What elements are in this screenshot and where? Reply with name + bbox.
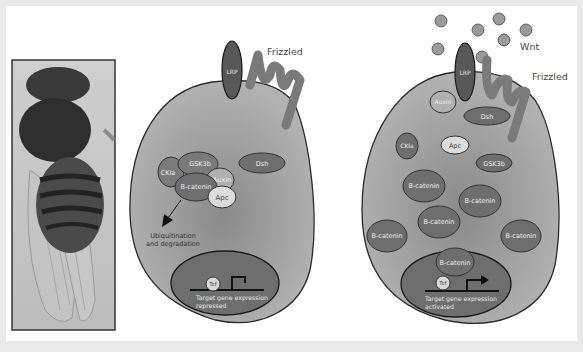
- wnt-label: Wnt: [520, 41, 539, 52]
- dsh-label: Dsh: [481, 113, 494, 121]
- bcatenin-label: B-catenin: [465, 197, 496, 205]
- bcatenin-label: B-catenin: [181, 183, 212, 191]
- degradation-label: and degradation: [146, 240, 200, 248]
- nucleus-caption-2: activated: [425, 303, 454, 310]
- wnt-ligands: [432, 13, 532, 63]
- bcatenin-label: B-catenin: [506, 232, 537, 240]
- nucleus-caption-1: Target gene expression: [195, 294, 268, 302]
- apc-label: Apc: [449, 142, 462, 150]
- tcf-label: Tcf: [438, 280, 447, 286]
- nucleus-bcatenin-label: B-catenin: [440, 259, 471, 267]
- dsh-label: Dsh: [256, 160, 269, 168]
- right-cell: Wnt LRP Frizzled Auxin Dsh CKIa Apc GSK3…: [362, 13, 568, 323]
- nucleus-caption-2: repressed: [196, 302, 227, 310]
- fly-photo: [12, 60, 115, 330]
- gsk3b-label: GSK3b: [483, 160, 505, 168]
- bcatenin-label: B-catenin: [409, 182, 440, 190]
- ubiquitination-label: Ubiquitination: [150, 232, 196, 240]
- frizzled-label: Frizzled: [532, 71, 568, 82]
- ckia-label: CKIa: [400, 142, 414, 149]
- wnt-pathway-diagram: LRP Frizzled CKIa GSK3b Auxin B-catenin …: [0, 0, 583, 352]
- auxin-label: Auxin: [435, 98, 452, 105]
- gsk3b-label: GSK3b: [189, 160, 211, 168]
- apc-label: Apc: [215, 194, 228, 202]
- bcatenin-label: B-catenin: [424, 218, 455, 226]
- lrp-label: LRP: [459, 69, 471, 76]
- lrp-label: LRP: [226, 68, 238, 75]
- ckia-label: CKIa: [161, 169, 176, 177]
- tcf-label: Tcf: [208, 281, 217, 287]
- nucleus-caption-1: Target gene expression: [424, 295, 497, 303]
- left-cell: LRP Frizzled CKIa GSK3b Auxin B-catenin …: [130, 41, 314, 323]
- bcatenin-label: B-catenin: [372, 232, 403, 240]
- frizzled-label: Frizzled: [267, 46, 303, 57]
